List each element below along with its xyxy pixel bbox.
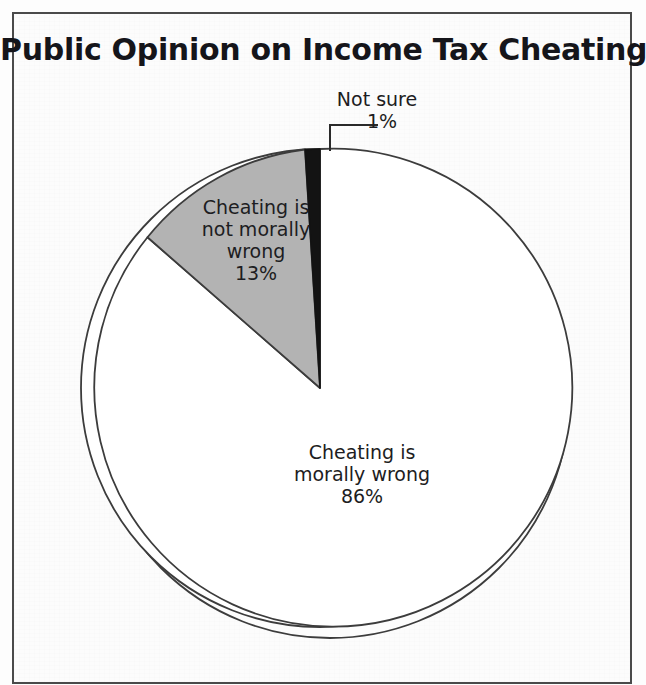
- slice-label-morally-wrong: Cheating is morally wrong 86%: [262, 441, 462, 507]
- not-sure-name-line: Not sure: [312, 88, 442, 110]
- morally-wrong-line-2: morally wrong: [262, 463, 462, 485]
- figure-root: Public Opinion on Income Tax Cheating No…: [0, 0, 646, 685]
- not-morally-wrong-line-2: not morally: [186, 218, 326, 240]
- not-morally-wrong-line-3: wrong: [186, 240, 326, 262]
- slice-label-not-sure: Not sure 1%: [312, 88, 442, 132]
- not-morally-wrong-value: 13%: [186, 262, 326, 284]
- morally-wrong-line-1: Cheating is: [262, 441, 462, 463]
- not-morally-wrong-line-1: Cheating is: [186, 196, 326, 218]
- not-sure-value-line: 1%: [322, 110, 442, 132]
- morally-wrong-value: 86%: [262, 485, 462, 507]
- slice-label-not-morally-wrong: Cheating is not morally wrong 13%: [186, 196, 326, 284]
